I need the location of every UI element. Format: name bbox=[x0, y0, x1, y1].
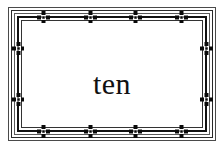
cross-lozenge-ornament bbox=[200, 93, 213, 106]
cross-lozenge-ornament bbox=[175, 125, 188, 138]
cross-lozenge-ornament bbox=[12, 42, 25, 55]
cross-lozenge-ornament bbox=[37, 11, 50, 24]
card-inner-field: ten bbox=[24, 23, 200, 125]
cross-lozenge-ornament bbox=[84, 11, 97, 24]
cross-lozenge-ornament bbox=[175, 11, 188, 24]
cross-lozenge-ornament bbox=[200, 42, 213, 55]
decorative-frame: ten bbox=[8, 7, 216, 141]
card-canvas: ten bbox=[0, 0, 223, 149]
cross-lozenge-ornament bbox=[84, 125, 97, 138]
card-caption-text: ten bbox=[24, 69, 200, 99]
cross-lozenge-ornament bbox=[129, 125, 142, 138]
cross-lozenge-ornament bbox=[12, 93, 25, 106]
cross-lozenge-ornament bbox=[129, 11, 142, 24]
cross-lozenge-ornament bbox=[37, 125, 50, 138]
